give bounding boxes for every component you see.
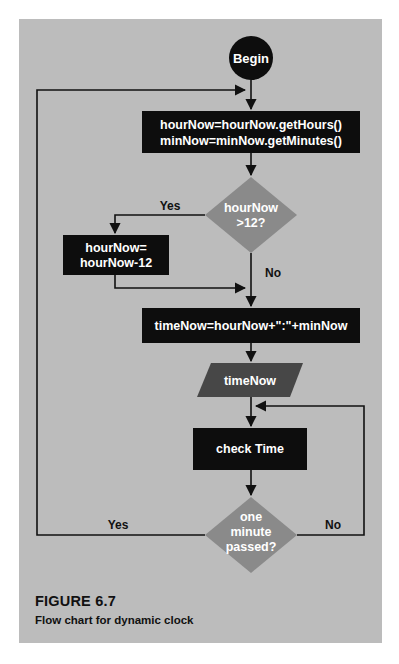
check-hour-decision: hourNow >12? [205, 177, 297, 253]
check-hour-line1: hourNow [224, 201, 278, 215]
subtract-line2: hourNow-12 [80, 256, 152, 270]
build-time-node: timeNow=hourNow+":"+minNow [142, 308, 360, 343]
minute-yes-label: Yes [108, 518, 129, 532]
minute-passed-decision: one minute passed? [205, 497, 297, 573]
figure-caption: Flow chart for dynamic clock [35, 614, 193, 626]
minute-no-label: No [325, 518, 341, 532]
check-time-node: check Time [193, 428, 307, 470]
check-hour-line2: >12? [237, 216, 266, 230]
get-time-node: hourNow=hourNow.getHours() minNow=minNow… [142, 111, 360, 153]
figure-title: FIGURE 6.7 [35, 593, 116, 609]
flowchart: Begin hourNow=hourNow.getHours() minNow=… [0, 0, 399, 664]
subtract-line1: hourNow= [85, 241, 146, 255]
minute-line2: minute [231, 525, 272, 539]
begin-label: Begin [233, 51, 269, 66]
hour-no-label: No [265, 266, 281, 280]
edge-hour-yes [115, 215, 205, 233]
minute-line3: passed? [226, 540, 277, 554]
begin-node: Begin [229, 36, 273, 80]
get-hours-line: hourNow=hourNow.getHours() [160, 118, 342, 132]
subtract-node: hourNow= hourNow-12 [63, 235, 169, 275]
get-minutes-line: minNow=minNow.getMinutes() [160, 134, 342, 148]
check-time-label: check Time [216, 442, 284, 456]
build-time-label: timeNow=hourNow+":"+minNow [155, 319, 348, 333]
edge-subtract-to-merge [115, 275, 245, 288]
hour-yes-label: Yes [160, 199, 181, 213]
output-time-node: timeNow [197, 363, 303, 397]
output-time-label: timeNow [224, 374, 276, 388]
minute-line1: one [240, 510, 262, 524]
